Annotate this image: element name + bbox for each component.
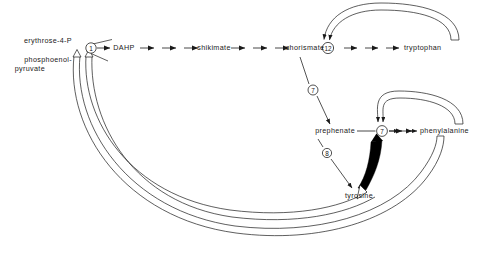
label-prephenate: prephenate [315,127,355,136]
pathway-diagram-canvas: erythrose-4-P phosphoenol- pyruvate DAHP… [0,0,484,256]
prephenate-to-tyrosine-arrow [318,139,352,188]
label-phenylalanine: phenylalanine [420,127,469,136]
label-tryptophan: tryptophan [404,44,441,53]
label-chorismate: chorismate [286,44,325,53]
pathway-svg [0,0,484,256]
enzyme-node-1-number: 1 [89,45,93,52]
label-shikimate: shikimate [197,44,231,53]
tyrosine-long-feedback-loop [86,56,375,220]
enzyme-node-7-number: 7 [380,128,384,135]
phenylalanine-long-feedback-loop [73,56,444,236]
label-dahp: DAHP [113,44,134,53]
label-tyrosine: tyrosine [345,192,373,201]
label-erythrose-4-p: erythrose-4-P [24,37,72,46]
enzyme-node-12-number: 12 [324,45,331,52]
enzyme-node-8-number: 8 [325,150,329,157]
phenylalanine-feedback-loop [377,91,463,124]
tyrosine-to-node7-thick-arrow [358,134,383,191]
enzyme-node-circles [86,42,388,157]
tryptophan-feedback-loop [324,3,459,40]
label-phosphoenolpyruvate-line2: pyruvate [15,65,45,74]
enzyme-node-7-branch-number: 7 [311,87,315,94]
